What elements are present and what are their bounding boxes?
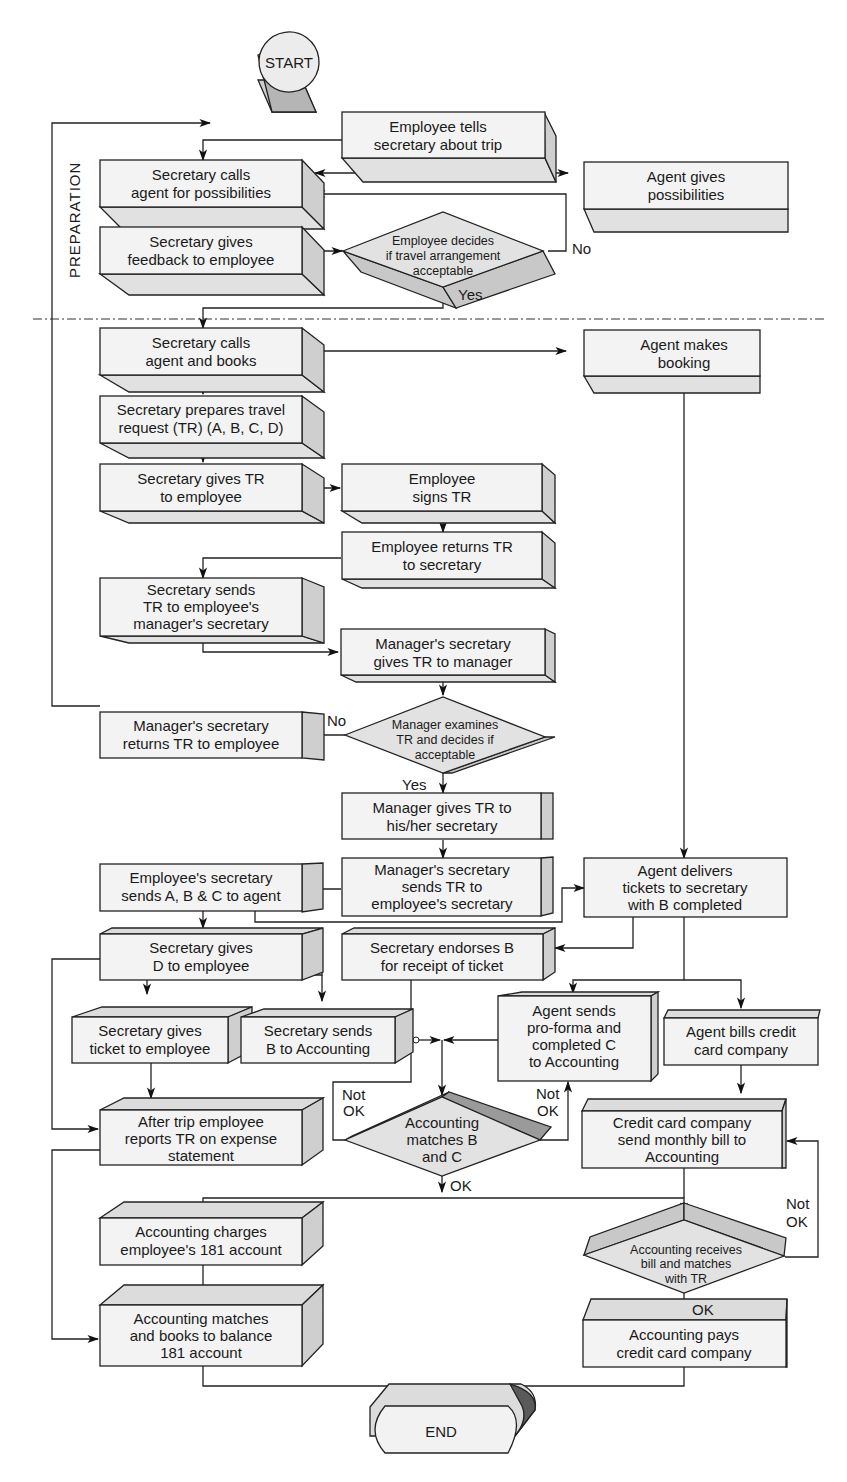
svg-text:his/her secretary: his/her secretary [387, 817, 498, 834]
svg-text:and C: and C [422, 1148, 462, 1165]
svg-text:Accounting receives: Accounting receives [630, 1243, 742, 1257]
decision-accounting-receives: Accounting receives bill and matches wit… [584, 1203, 786, 1293]
svg-text:Accounting pays: Accounting pays [629, 1326, 739, 1343]
svg-text:agent and books: agent and books [146, 352, 257, 369]
svg-text:ticket to employee: ticket to employee [90, 1040, 211, 1057]
svg-text:After trip employee: After trip employee [138, 1113, 264, 1130]
svg-text:Secretary gives: Secretary gives [149, 939, 252, 956]
node-secretary-books: Secretary calls agent and books [100, 328, 324, 392]
edge-label-not-ok-left: Not OK [342, 1086, 366, 1119]
svg-text:Secretary gives: Secretary gives [149, 233, 252, 250]
svg-text:Not: Not [342, 1086, 366, 1103]
svg-text:sends A, B & C to agent: sends A, B & C to agent [121, 887, 281, 904]
svg-text:Agent delivers: Agent delivers [637, 862, 732, 879]
svg-text:to Accounting: to Accounting [529, 1053, 619, 1070]
svg-text:Not: Not [536, 1085, 560, 1102]
svg-text:TR to employee's: TR to employee's [143, 598, 259, 615]
svg-text:Employee tells: Employee tells [389, 118, 487, 135]
svg-text:Accounting matches: Accounting matches [133, 1310, 268, 1327]
edge-label-ok-bc: OK [450, 1177, 472, 1194]
svg-text:Employee's secretary: Employee's secretary [130, 869, 273, 886]
node-emp-sec-sends: Employee's secretary sends A, B & C to a… [100, 863, 323, 912]
svg-text:Employee returns TR: Employee returns TR [371, 538, 513, 555]
node-accounting-charges: Accounting charges employee's 181 accoun… [100, 1202, 323, 1265]
preparation-section-label: PREPARATION [66, 162, 83, 278]
edge-label-not-ok-right: Not OK [536, 1085, 560, 1119]
svg-text:send monthly bill to: send monthly bill to [618, 1131, 746, 1148]
svg-text:Manager gives TR to: Manager gives TR to [373, 799, 512, 816]
edge-label-ok-cc: OK [692, 1301, 714, 1318]
svg-text:request (TR) (A, B, C, D): request (TR) (A, B, C, D) [118, 419, 283, 436]
edge-label-no: No [572, 240, 591, 257]
node-after-trip: After trip employee reports TR on expens… [100, 1098, 323, 1165]
edge-label-not-ok-cc: Not OK [786, 1195, 810, 1230]
svg-text:agent for possibilities: agent for possibilities [131, 184, 271, 201]
svg-text:employee's 181 account: employee's 181 account [120, 1241, 282, 1258]
svg-text:completed C: completed C [532, 1036, 616, 1053]
svg-text:OK: OK [537, 1102, 559, 1119]
svg-text:Employee: Employee [409, 470, 476, 487]
svg-text:acceptable: acceptable [415, 748, 476, 762]
svg-text:Employee decides: Employee decides [392, 234, 494, 248]
svg-text:gives TR to manager: gives TR to manager [374, 653, 513, 670]
node-secretary-sends-mgr: Secretary sends TR to employee's manager… [100, 578, 324, 643]
decision-manager-examines: Manager examines TR and decides if accep… [345, 697, 555, 773]
svg-text:booking: booking [658, 354, 711, 371]
node-accounting-pays: Accounting pays credit card company [583, 1299, 787, 1367]
svg-text:pro-forma and: pro-forma and [527, 1019, 621, 1036]
node-secretary-feedback: Secretary gives feedback to employee [100, 227, 324, 295]
node-secretary-gives-tr: Secretary gives TR to employee [100, 464, 324, 523]
node-mgr-sec-returns: Manager's secretary returns TR to employ… [100, 712, 324, 760]
node-agent-gives: Agent gives possibilities [584, 162, 788, 232]
svg-text:Secretary sends: Secretary sends [147, 581, 255, 598]
node-employee-tells: Employee tells secretary about trip [342, 112, 556, 182]
node-secretary-prepares: Secretary prepares travel request (TR) (… [100, 396, 324, 458]
svg-text:Manager's secretary: Manager's secretary [133, 717, 269, 734]
node-agent-sends-proforma: Agent sends pro-forma and completed C to… [498, 992, 658, 1081]
svg-text:Accounting: Accounting [405, 1114, 479, 1131]
svg-text:to employee: to employee [160, 488, 242, 505]
svg-text:Accounting: Accounting [645, 1148, 719, 1165]
svg-text:Agent bills credit: Agent bills credit [686, 1023, 797, 1040]
svg-text:Agent makes: Agent makes [640, 336, 728, 353]
svg-text:181 account: 181 account [160, 1344, 243, 1361]
svg-text:card company: card company [694, 1041, 789, 1058]
svg-text:Secretary gives TR: Secretary gives TR [137, 470, 264, 487]
svg-text:with TR: with TR [664, 1272, 707, 1286]
edge-label-no-manager: No [327, 712, 346, 729]
start-label: START [265, 54, 313, 71]
svg-text:credit card company: credit card company [616, 1344, 752, 1361]
svg-text:for receipt of ticket: for receipt of ticket [381, 957, 504, 974]
svg-text:reports TR on expense: reports TR on expense [125, 1130, 277, 1147]
edge-label-yes-manager: Yes [402, 776, 426, 793]
svg-text:Secretary calls: Secretary calls [152, 334, 250, 351]
node-manager-gives: Manager gives TR to his/her secretary [342, 793, 553, 839]
decision-employee-decides: Employee decides if travel arrangement a… [343, 212, 555, 308]
end-label: END [425, 1423, 457, 1440]
svg-text:Secretary prepares travel: Secretary prepares travel [117, 401, 285, 418]
node-secretary-sends-b: Secretary sends B to Accounting [241, 1009, 413, 1063]
node-agent-booking: Agent makes booking [584, 330, 760, 393]
svg-text:D to employee: D to employee [153, 957, 250, 974]
svg-text:Secretary gives: Secretary gives [98, 1022, 201, 1039]
end-terminal: END [370, 1384, 535, 1453]
svg-text:returns TR to employee: returns TR to employee [123, 735, 279, 752]
svg-text:TR and decides if: TR and decides if [396, 733, 494, 747]
svg-text:sends TR to: sends TR to [402, 878, 483, 895]
edge-label-yes: Yes [458, 286, 482, 303]
svg-text:possibilities: possibilities [648, 186, 725, 203]
svg-text:secretary about trip: secretary about trip [374, 136, 502, 153]
svg-text:signs TR: signs TR [413, 488, 472, 505]
svg-text:manager's secretary: manager's secretary [133, 615, 269, 632]
svg-text:to secretary: to secretary [403, 556, 482, 573]
svg-text:Manager examines: Manager examines [392, 718, 498, 732]
svg-text:acceptable: acceptable [413, 264, 474, 278]
svg-text:if travel arrangement: if travel arrangement [386, 249, 501, 263]
svg-text:Secretary sends: Secretary sends [264, 1022, 372, 1039]
node-secretary-ticket: Secretary gives ticket to employee [72, 1007, 252, 1063]
svg-text:Manager's secretary: Manager's secretary [374, 861, 510, 878]
node-mgr-sec-sends: Manager's secretary sends TR to employee… [342, 857, 553, 916]
node-secretary-gives-d: Secretary gives D to employee [100, 928, 323, 980]
node-cc-company-sends: Credit card company send monthly bill to… [582, 1099, 786, 1168]
node-employee-returns: Employee returns TR to secretary [342, 532, 555, 588]
